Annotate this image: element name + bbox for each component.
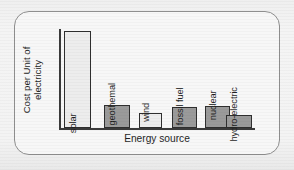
bar-label-solar: solar bbox=[68, 113, 77, 133]
bar-hydro-electric: hydro-electric bbox=[226, 115, 252, 128]
bar-label-nuclear: nuclear bbox=[208, 90, 217, 120]
bar-chart-plot-area: solar geothemal wind fossil fuel nuclear… bbox=[0, 0, 294, 170]
bar-solar: solar bbox=[64, 31, 91, 128]
bar-label-geothemal: geothemal bbox=[108, 83, 117, 126]
x-axis-title: Energy source bbox=[59, 133, 255, 144]
y-axis-line bbox=[59, 29, 61, 129]
y-axis-title-line-1: Cost per Unit of bbox=[21, 34, 32, 126]
bar-fossil-fuel: fossil fuel bbox=[172, 107, 197, 128]
y-axis-title-line-2: electricity bbox=[32, 34, 43, 126]
bar-label-wind: wind bbox=[141, 103, 150, 122]
y-axis-title: Cost per Unit of electricity bbox=[21, 34, 44, 126]
bar-geothemal: geothemal bbox=[104, 105, 130, 128]
bar-wind: wind bbox=[139, 113, 162, 128]
figure-root: solar geothemal wind fossil fuel nuclear… bbox=[0, 0, 294, 170]
bar-label-fossil-fuel: fossil fuel bbox=[175, 87, 184, 125]
